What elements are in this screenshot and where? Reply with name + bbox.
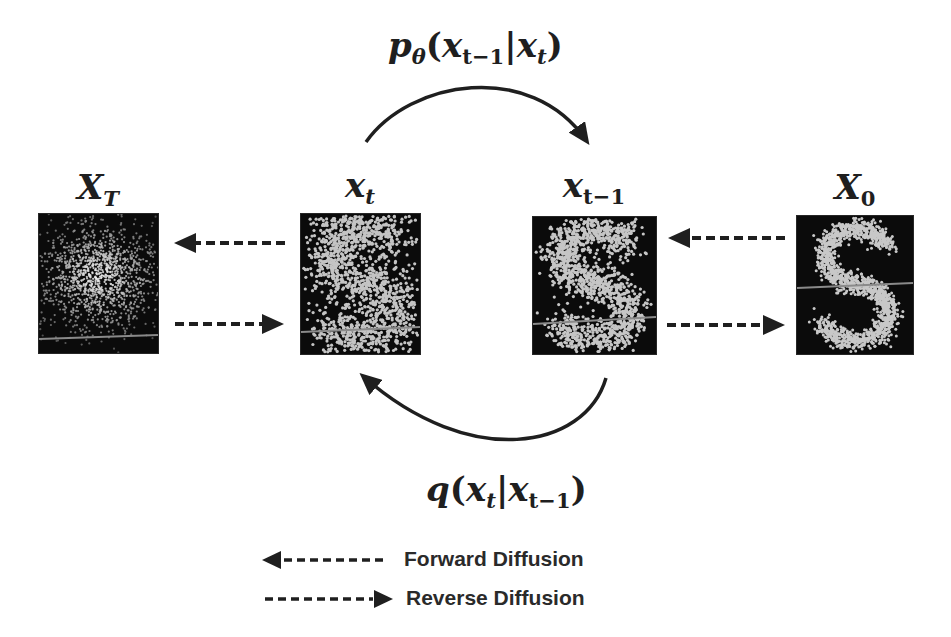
- panel-xT-noise: [38, 213, 159, 354]
- formula-var: x: [442, 25, 462, 65]
- label-sub: t−1: [583, 184, 625, 209]
- label-base: X: [834, 167, 860, 207]
- paren-close: ): [547, 25, 563, 65]
- legend-forward-arrow-icon: [262, 551, 383, 569]
- formula-fn-sub: θ: [412, 44, 426, 69]
- given-bar: |: [504, 25, 516, 65]
- panel-xt: [300, 213, 421, 355]
- legend-reverse-label: Reverse Diffusion: [406, 586, 585, 610]
- formula-fn: p: [388, 25, 412, 65]
- state-label-xT: XT: [38, 170, 158, 204]
- forward-step-arc: [364, 377, 606, 440]
- label-sub: t: [365, 184, 375, 209]
- reverse-process-formula: pθ(xt−1|xt): [388, 28, 563, 62]
- formula-var: x: [517, 25, 537, 65]
- formula-fn: q: [426, 469, 450, 509]
- formula-var-sub: t: [486, 488, 496, 513]
- clean-s-image: [797, 216, 913, 354]
- formula-var: x: [466, 469, 486, 509]
- paren-open: (: [450, 469, 466, 509]
- formula-var: x: [508, 469, 528, 509]
- reverse-arrow-xt-1-to-x0: [667, 315, 785, 335]
- label-sub: T: [103, 186, 119, 211]
- noise-blob-image: [39, 214, 158, 353]
- label-base: X: [77, 167, 103, 207]
- formula-var-sub: t: [537, 44, 547, 69]
- panel-x0: [796, 215, 914, 355]
- paren-open: (: [426, 25, 442, 65]
- partially-denoised-s-image: [533, 217, 656, 354]
- reverse-arrow-xT-to-xt: [175, 314, 284, 334]
- reverse-step-arc: [366, 87, 586, 142]
- state-label-xt-minus-1: xt−1: [532, 168, 656, 202]
- label-base: x: [345, 165, 365, 205]
- panel-xt-minus-1: [532, 216, 657, 355]
- state-label-xt: xt: [300, 168, 420, 202]
- formula-var-sub: t−1: [462, 44, 504, 69]
- given-bar: |: [496, 469, 508, 509]
- label-base: x: [563, 165, 583, 205]
- state-label-x0: X0: [796, 170, 914, 204]
- legend-forward-label: Forward Diffusion: [404, 547, 584, 571]
- formula-var-sub: t−1: [529, 488, 571, 513]
- noisy-s-image: [301, 214, 420, 354]
- paren-close: ): [571, 469, 587, 509]
- forward-process-formula: q(xt|xt−1): [426, 472, 587, 506]
- forward-arrow-xt-to-xT: [174, 233, 285, 253]
- legend-reverse-arrow-icon: [265, 590, 393, 608]
- label-sub: 0: [861, 186, 876, 211]
- forward-arrow-x0-to-xt-1: [668, 228, 785, 248]
